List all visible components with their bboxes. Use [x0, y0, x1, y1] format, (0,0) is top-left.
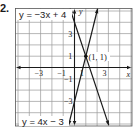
y-axis-arrow-down-icon [73, 121, 77, 125]
y-tick-label: 1 [68, 52, 72, 61]
line1-equation-label: y = −3x + 4 [19, 9, 66, 20]
problem-number: 2. [0, 2, 9, 14]
line-arrowhead-icon [106, 120, 109, 125]
line-1 [70, 9, 109, 125]
x-axis-arrow-right-icon [127, 66, 131, 70]
x-tick-label: 1 [80, 69, 84, 78]
coordinate-plane: −3−11331−1−3 y = −3x + 4 y = 4x − 3 y x … [0, 0, 136, 136]
x-tick-label: 3 [102, 69, 106, 78]
axes [17, 10, 132, 126]
y-axis-label: y [78, 7, 83, 16]
x-tick-label: −3 [35, 69, 44, 78]
y-axis-arrow-up-icon [73, 10, 77, 14]
intersection-point-label: (1, 1) [89, 52, 108, 62]
graph-figure: 2. −3−11331−1−3 y = −3x + 4 y = 4x − 3 y… [0, 0, 136, 136]
y-tick-label: −3 [64, 97, 73, 106]
intersection-point-marker [84, 54, 88, 58]
y-tick-label: 3 [68, 30, 72, 39]
line2-equation-label: y = 4x − 3 [22, 116, 64, 127]
line-2 [69, 9, 98, 125]
y-tick-label: −1 [64, 75, 73, 84]
x-axis-label: x [126, 70, 131, 79]
x-axis-arrow-left-icon [17, 66, 21, 70]
